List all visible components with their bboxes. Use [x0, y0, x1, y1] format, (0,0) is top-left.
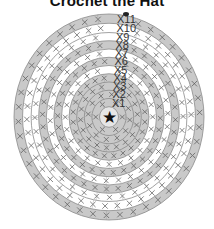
crochet-round-diagram: X1X2X3X4X5X6X7X8X9X10X11★ [0, 0, 214, 229]
start-marker-icon [123, 12, 129, 16]
star-icon: ★ [102, 108, 117, 127]
